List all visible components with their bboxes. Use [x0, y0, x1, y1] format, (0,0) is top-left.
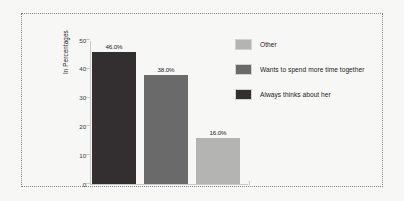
y-tick-mark	[86, 97, 90, 98]
y-tick-mark	[86, 183, 90, 184]
figure-border: In Percentages 01020304050 46.0%38.0%16.…	[21, 13, 383, 187]
bar[interactable]	[144, 75, 188, 184]
bar[interactable]	[92, 52, 136, 184]
x-axis-end-tick	[249, 181, 250, 185]
y-tick-mark	[86, 125, 90, 126]
bar-value-label: 16.0%	[209, 129, 226, 136]
legend-color-swatch	[235, 89, 252, 100]
legend-color-swatch	[235, 39, 252, 50]
y-tick-label: 20	[79, 122, 86, 129]
bar-value-label: 46.0%	[105, 43, 122, 50]
bar-series: 46.0%38.0%16.0%	[92, 40, 248, 184]
y-tick-mark	[86, 154, 90, 155]
y-tick-label: 30	[79, 94, 86, 101]
bar-group: 38.0%	[144, 40, 188, 184]
y-tick-label: 40	[79, 65, 86, 72]
legend-label: Always thinks about her	[260, 91, 331, 98]
plot-area: 01020304050 46.0%38.0%16.0%	[90, 38, 250, 187]
chart-figure: In Percentages 01020304050 46.0%38.0%16.…	[0, 0, 404, 201]
y-axis-title: In Percentages	[62, 30, 69, 74]
x-axis-line	[90, 184, 248, 185]
legend-label: Other	[260, 41, 277, 48]
bar-group: 46.0%	[92, 40, 136, 184]
legend-item[interactable]: Other	[235, 38, 400, 50]
bar[interactable]	[196, 138, 240, 184]
legend-label: Wants to spend more time together	[260, 66, 364, 73]
bar-value-label: 38.0%	[157, 66, 174, 73]
y-tick-label: 50	[79, 36, 86, 43]
legend-color-swatch	[235, 64, 252, 75]
y-tick-mark	[86, 68, 90, 69]
legend-item[interactable]: Always thinks about her	[235, 88, 400, 100]
bar-group: 16.0%	[196, 40, 240, 184]
y-tick-label: 0	[83, 180, 86, 187]
y-tick-mark	[86, 39, 90, 40]
y-tick-label: 10	[79, 151, 86, 158]
y-axis-line	[90, 41, 91, 185]
legend: OtherWants to spend more time togetherAl…	[235, 38, 400, 113]
legend-item[interactable]: Wants to spend more time together	[235, 63, 400, 75]
